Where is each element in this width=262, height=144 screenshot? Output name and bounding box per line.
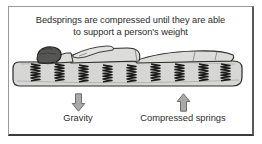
arrow-down-icon: [71, 93, 86, 112]
mattress-illustration: [9, 39, 252, 97]
compressed-springs-arrow-wrap: [117, 93, 249, 112]
gravity-arrow-wrap: [33, 93, 123, 112]
legend-item-compressed-springs: Compressed springs: [117, 93, 249, 124]
diagram-caption: Bedsprings are compressed until they are…: [13, 14, 248, 39]
caption-line-1: Bedsprings are compressed until they are…: [13, 14, 248, 26]
mattress-illustration-svg: [9, 39, 252, 97]
gravity-label: Gravity: [33, 113, 123, 124]
diagram-frame: Bedsprings are compressed until they are…: [8, 6, 254, 136]
caption-line-2: to support a person's weight: [13, 26, 248, 38]
diagram-legend: Gravity Compressed springs: [9, 93, 252, 135]
compressed-springs-label: Compressed springs: [117, 113, 249, 124]
legend-item-gravity: Gravity: [33, 93, 123, 124]
person-on-mattress: [37, 46, 234, 64]
arrow-up-icon: [176, 93, 191, 112]
